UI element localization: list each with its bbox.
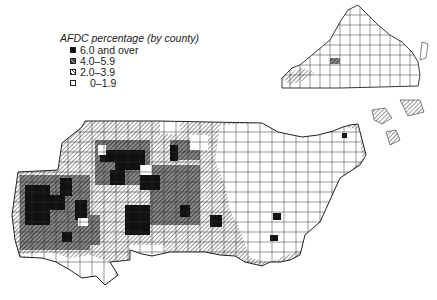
legend-item-dark: 6.0 and over bbox=[70, 44, 199, 55]
delmarva-fragment bbox=[372, 108, 392, 124]
swatch-hatch-icon bbox=[70, 69, 76, 75]
legend: AFDC percentage (by county) 6.0 and over… bbox=[70, 32, 199, 88]
legend-item-hatch: 2.0–3.9 bbox=[70, 66, 199, 77]
choropleth-map bbox=[0, 0, 437, 300]
swatch-white-icon bbox=[70, 80, 76, 86]
main-south-region bbox=[0, 110, 370, 290]
swatch-mid-icon bbox=[70, 58, 76, 64]
virginia-inset bbox=[270, 0, 430, 95]
legend-item-white: 0–1.9 bbox=[70, 77, 199, 88]
legend-title: AFDC percentage (by county) bbox=[60, 32, 199, 44]
swatch-dark-icon bbox=[70, 47, 76, 53]
legend-item-mid: 4.0–5.9 bbox=[70, 55, 199, 66]
